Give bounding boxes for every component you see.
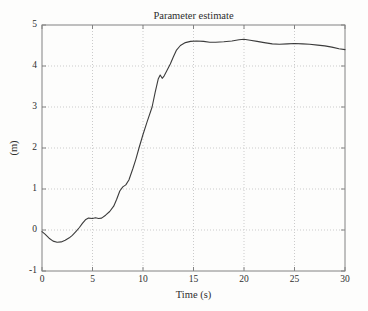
x-tick-label: 15 bbox=[179, 274, 209, 284]
x-tick-label: 30 bbox=[330, 274, 360, 284]
y-tick-label: 1 bbox=[0, 183, 37, 193]
y-tick-label: 3 bbox=[0, 101, 37, 111]
plot-area bbox=[0, 0, 368, 311]
y-tick-label: 4 bbox=[0, 60, 37, 70]
x-tick-label: 0 bbox=[27, 274, 57, 284]
y-tick-label: 0 bbox=[0, 224, 37, 234]
x-tick-label: 25 bbox=[280, 274, 310, 284]
y-tick-label: 5 bbox=[0, 19, 37, 29]
x-tick-label: 20 bbox=[229, 274, 259, 284]
figure: Parameter estimate (m) -1012345 05101520… bbox=[0, 0, 368, 311]
x-tick-label: 5 bbox=[78, 274, 108, 284]
y-tick-label: 2 bbox=[0, 142, 37, 152]
x-tick-label: 10 bbox=[128, 274, 158, 284]
x-axis-label: Time (s) bbox=[42, 289, 345, 300]
